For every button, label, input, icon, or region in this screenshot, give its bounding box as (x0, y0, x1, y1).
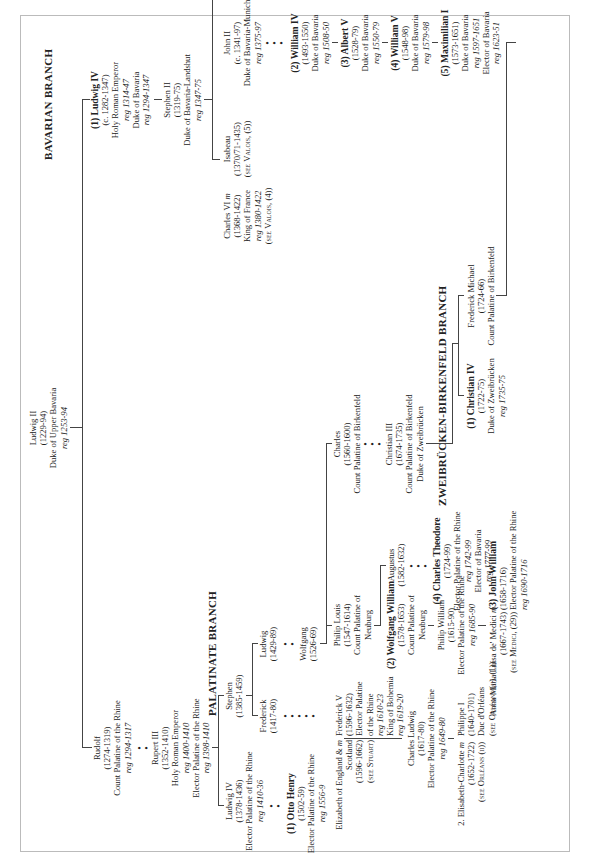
person-charles-ludwig: Charles Ludwig (1617-80) Elector Palatin… (406, 681, 447, 796)
person-ludwig-ii: Ludwig II (1229-94) Duke of Upper Bavari… (28, 383, 69, 473)
person-john-ii: John II (c. 1341-97) Duke of Bavaria-Mun… (222, 0, 263, 91)
person-anna-maria-luisa: Anna Maria Luisa de' Medici m (1667-1743… (488, 612, 519, 716)
person-rupert-iii: Rupert III (1352-1410) Holy Roman Empero… (150, 688, 211, 808)
person-elizabeth-of-england: Elizabeth of England & m Scotland (1596-… (334, 740, 375, 850)
person-ludwig: Ludwig (1429-89) (258, 619, 278, 669)
branch-label-zweibrucken: ZWEIBRÜCKEN-BIRKENFELD BRANCH (436, 286, 448, 506)
person-elisabeth-charlotte: 2. Elisabeth-Charlotte m (1652-1722) (se… (456, 742, 487, 848)
person-wolfgang: Wolfgang (1526-69) (298, 619, 318, 669)
branch-label-bavarian: BAVARIAN BRANCH (42, 49, 54, 160)
person-william-v: (4) William V (1548-98) Duke of Bavaria … (390, 3, 431, 83)
person-frederick-michael: Frederick Michael (1724-66) Count Palati… (466, 246, 497, 346)
person-john-william: (3) John William (1658-1716) Elector Pal… (488, 500, 529, 610)
person-albert-v: (3) Albert V (1528-79) Duke of Bavaria r… (340, 3, 381, 83)
person-charles-vi: Charles VI m (1368-1422) King of France … (222, 176, 273, 256)
person-philip-louis: Philip Louis (1547-1614) Count Palatine … (332, 589, 373, 661)
person-charles-birkenfeld: Charles (1560-1600) Count Palatine of Bi… (332, 394, 363, 494)
person-charles-theodore: (4) Charles Theodore (1724-99) Elector P… (432, 506, 493, 616)
person-christian-iv: (1) Christian IV (1722-75) Duke of Zweib… (466, 346, 507, 446)
person-ludwig-iv-emperor: (1) Ludwig IV (c. 1282-1347) Holy Roman … (90, 50, 151, 150)
person-maximilian-i: (5) Maximilian I (1573-1651) Duke of Bav… (440, 0, 501, 88)
person-stephen-ii: Stephen II (1319-75) Duke of Bavaria-Lan… (162, 40, 203, 160)
person-stephen: Stephen (1385-1459) (224, 666, 244, 726)
person-rudolf: Rudolf (1274-1319) Count Palatine of the… (92, 693, 133, 803)
branch-label-palatinate: PALATINATE BRANCH (206, 591, 218, 716)
person-isabeau: Isabeau (1370/71-1435) (see Valois, (5)) (222, 114, 253, 184)
person-frederick-v: Frederick V (1596-1632) Elector Palatine… (334, 664, 405, 736)
person-ludwig-iv-elector: Ludwig IV (1378-1436) Elector Palatine o… (224, 746, 265, 856)
person-william-iv: (2) William IV (1493-1550) Duke of Bavar… (290, 3, 331, 83)
person-augustus: Augustus (1582-1632) (386, 539, 406, 591)
genealogy-diagram: Ludwig II (1229-94) Duke of Upper Bavari… (0, 0, 591, 866)
person-frederick: Frederick (1417-80) (258, 691, 278, 741)
person-christian-iii: Christian III (1674-1735) Count Palatine… (384, 394, 425, 494)
person-otto-henry: (1) Otto Henry (1502-59) Elector Palatin… (286, 746, 327, 861)
person-wolfgang-william: (2) Wolfgang William (1578-1653) Count P… (386, 580, 427, 670)
